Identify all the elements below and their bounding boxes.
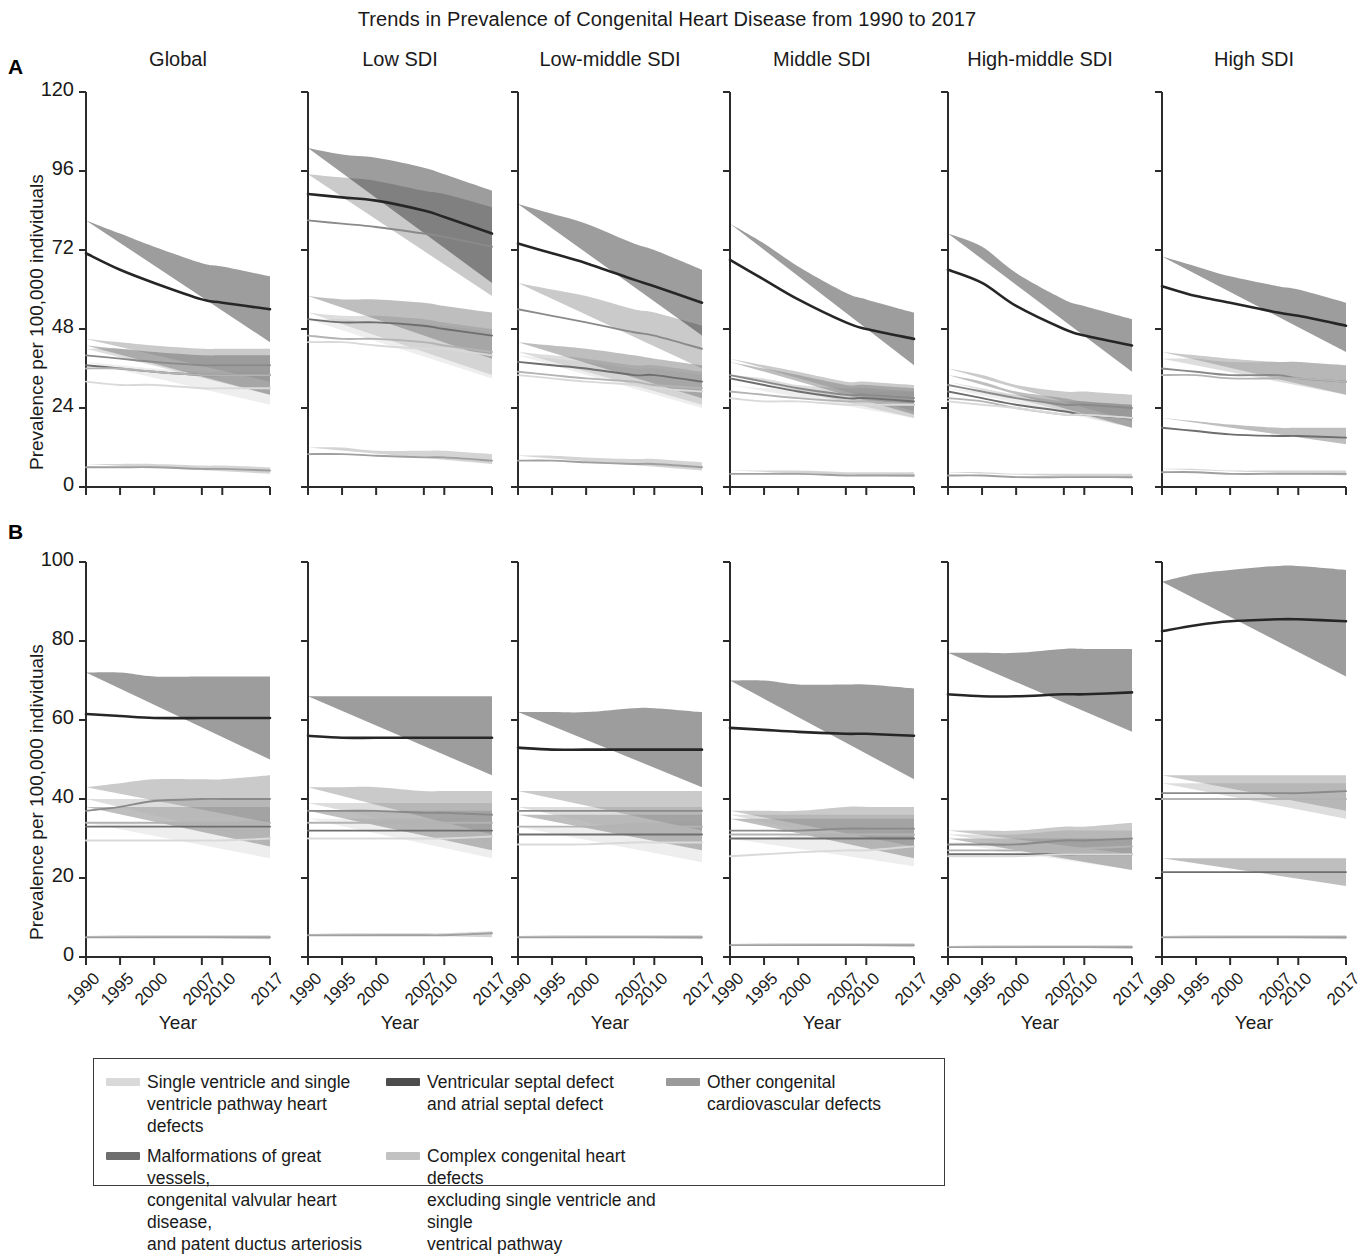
legend-label-other-congenital: Other congenital cardiovascular defects [707,1071,881,1115]
legend: Single ventricle and single ventricle pa… [93,1058,945,1186]
facet-a-high-middle-sdi [941,92,1132,495]
facet-b-global [79,562,270,965]
legend-item-single-ventricle: Single ventricle and single ventricle pa… [106,1071,371,1137]
facet-b-high-sdi [1155,562,1346,965]
legend-item-other-congenital: Other congenital cardiovascular defects [666,1071,916,1115]
facet-b-low-sdi [301,562,492,965]
legend-swatch-single-ventricle [106,1078,140,1086]
facet-a-high-sdi [1155,92,1346,495]
legend-item-vsd-asd: Ventricular septal defect and atrial sep… [386,1071,636,1115]
facet-a-middle-sdi [723,92,914,495]
legend-swatch-vsd-asd [386,1078,420,1086]
legend-item-complex-chd: Complex congenital heart defects excludi… [386,1145,666,1255]
legend-label-vsd-asd: Ventricular septal defect and atrial sep… [427,1071,614,1115]
legend-swatch-great-vessels [106,1152,140,1160]
facet-b-low-middle-sdi [511,562,702,965]
legend-item-great-vessels: Malformations of great vessels, congenit… [106,1145,371,1255]
legend-label-single-ventricle: Single ventricle and single ventricle pa… [147,1071,371,1137]
facet-b-high-middle-sdi [941,562,1132,965]
legend-swatch-complex-chd [386,1152,420,1160]
facet-a-global [79,92,270,495]
facet-a-low-sdi [301,92,492,495]
legend-label-great-vessels: Malformations of great vessels, congenit… [147,1145,371,1255]
facet-a-low-middle-sdi [511,92,702,495]
facet-b-middle-sdi [723,562,914,965]
legend-swatch-other-congenital [666,1078,700,1086]
legend-label-complex-chd: Complex congenital heart defects excludi… [427,1145,666,1255]
